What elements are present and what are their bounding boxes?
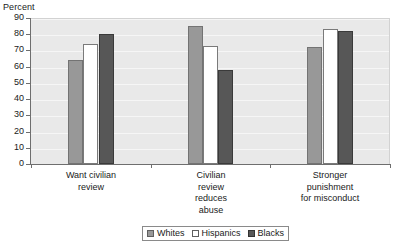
legend-swatch-blacks (248, 230, 255, 237)
y-axis-tick: 10 (0, 148, 30, 149)
y-tick-mark (26, 164, 30, 165)
y-tick-mark (26, 18, 30, 19)
y-tick-label: 30 (14, 109, 24, 119)
bar (203, 46, 218, 164)
y-axis-title: Percent (3, 2, 35, 12)
category-label: Want civilian review (31, 170, 151, 193)
bar (68, 60, 83, 164)
category-label: Civilian review reduces abuse (151, 170, 271, 216)
bar (307, 47, 322, 164)
y-axis-tick: 60 (0, 67, 30, 68)
y-tick-label: 70 (14, 44, 24, 54)
bar (188, 26, 203, 164)
y-tick-mark (26, 132, 30, 133)
y-tick-label: 50 (14, 77, 24, 87)
legend-entry-whites: Whites (147, 228, 185, 238)
legend-entry-blacks: Blacks (248, 228, 285, 238)
bar (323, 29, 338, 164)
x-axis-tick (390, 164, 391, 168)
y-tick-mark (26, 115, 30, 116)
legend-swatch-hispanics (192, 230, 199, 237)
bar (83, 44, 98, 164)
legend-swatch-whites (147, 230, 154, 237)
gridline (31, 19, 389, 20)
y-tick-label: 0 (19, 158, 24, 168)
y-tick-mark (26, 83, 30, 84)
category-label: Stronger punishment for misconduct (270, 170, 390, 205)
legend-label-whites: Whites (157, 228, 185, 238)
y-tick-mark (26, 67, 30, 68)
y-axis-tick: 80 (0, 34, 30, 35)
y-tick-label: 20 (14, 126, 24, 136)
y-tick-mark (26, 50, 30, 51)
y-tick-label: 40 (14, 93, 24, 103)
y-axis-tick: 20 (0, 132, 30, 133)
y-axis-tick: 90 (0, 18, 30, 19)
y-axis-line (30, 18, 31, 165)
y-axis-tick: 30 (0, 115, 30, 116)
legend-label-blacks: Blacks (258, 228, 285, 238)
x-axis-tick (270, 164, 271, 168)
y-axis-tick: 40 (0, 99, 30, 100)
x-axis-tick (151, 164, 152, 168)
y-tick-mark (26, 99, 30, 100)
legend-entry-hispanics: Hispanics (192, 228, 241, 238)
bar (218, 70, 233, 164)
bar (338, 31, 353, 164)
x-axis-line (30, 164, 390, 165)
y-tick-mark (26, 34, 30, 35)
bar (99, 34, 114, 164)
y-tick-label: 90 (14, 12, 24, 22)
y-tick-mark (26, 148, 30, 149)
y-tick-label: 80 (14, 28, 24, 38)
y-tick-label: 10 (14, 142, 24, 152)
y-axis-tick: 0 (0, 164, 30, 165)
legend-label-hispanics: Hispanics (202, 228, 241, 238)
chart-legend: Whites Hispanics Blacks (142, 226, 289, 241)
chart-screenshot: Percent 9080706050403020100 Want civilia… (0, 0, 405, 247)
y-axis-tick: 50 (0, 83, 30, 84)
y-tick-label: 60 (14, 61, 24, 71)
x-axis-tick (31, 164, 32, 168)
y-axis-tick: 70 (0, 50, 30, 51)
